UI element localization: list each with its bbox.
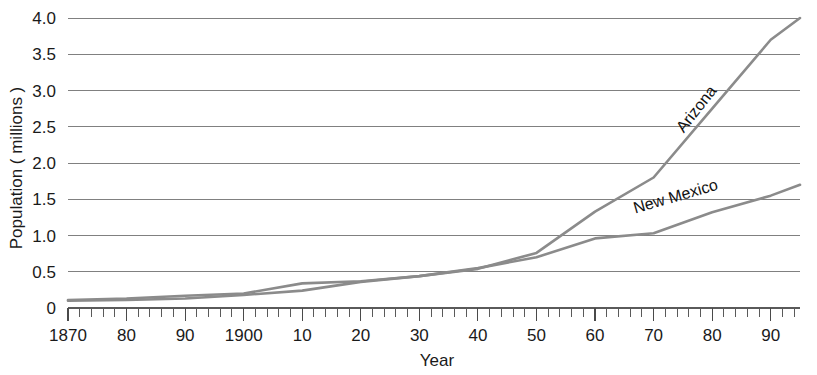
x-tick-label: 1900 — [225, 326, 263, 345]
y-tick-label: 1.5 — [32, 190, 56, 209]
y-tick-label: 0.5 — [32, 263, 56, 282]
x-tick-label: 90 — [761, 326, 780, 345]
series-line-arizona — [68, 18, 800, 301]
population-line-chart: 00.51.01.52.02.53.03.54.0 18708090190010… — [0, 0, 817, 375]
x-tick-label: 80 — [117, 326, 136, 345]
y-axis-title: Population ( millions ) — [7, 87, 26, 250]
y-tick-label: 1.0 — [32, 227, 56, 246]
x-tick-label: 10 — [293, 326, 312, 345]
x-tick-label: 20 — [351, 326, 370, 345]
x-tick-label: 70 — [644, 326, 663, 345]
series-line-new-mexico — [68, 185, 800, 300]
y-tick-label: 2.5 — [32, 118, 56, 137]
x-tick-label: 80 — [703, 326, 722, 345]
y-tick-label: 4.0 — [32, 9, 56, 28]
x-tick-label: 50 — [527, 326, 546, 345]
x-tick-label: 30 — [410, 326, 429, 345]
y-tick-label: 3.0 — [32, 82, 56, 101]
series-labels: ArizonaNew Mexico — [631, 82, 720, 216]
y-tick-label: 2.0 — [32, 154, 56, 173]
x-tick-label: 90 — [176, 326, 195, 345]
chart-canvas: 00.51.01.52.02.53.03.54.0 18708090190010… — [0, 0, 817, 375]
gridlines — [68, 18, 800, 272]
y-tick-label: 3.5 — [32, 45, 56, 64]
x-tick-label: 40 — [468, 326, 487, 345]
x-axis — [68, 308, 800, 321]
x-tick-label: 1870 — [49, 326, 87, 345]
x-axis-title: Year — [420, 351, 455, 370]
x-tick-label: 60 — [586, 326, 605, 345]
data-series — [68, 18, 800, 301]
y-tick-label: 0 — [47, 299, 56, 318]
x-axis-tick-labels: 187080901900102030405060708090 — [49, 326, 780, 345]
y-axis-tick-labels: 00.51.01.52.02.53.03.54.0 — [32, 9, 56, 318]
